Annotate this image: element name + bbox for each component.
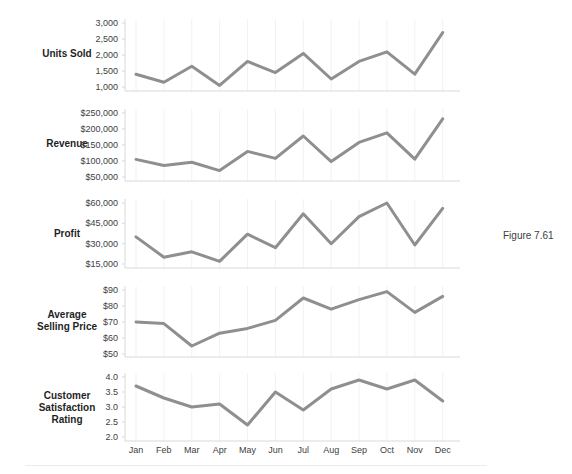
y-tick-label: $50 <box>103 349 118 359</box>
y-tick-label: $150,000 <box>80 140 118 150</box>
figure-caption: Figure 7.61 <box>503 230 554 241</box>
y-tick-label: $45,000 <box>85 218 118 228</box>
month-label: Feb <box>156 445 172 455</box>
series-line <box>136 203 443 261</box>
y-tick-label: 3.0 <box>105 402 118 412</box>
month-label: Oct <box>380 445 395 455</box>
y-tick-label: 1,500 <box>95 66 118 76</box>
figure-bottom-rule <box>25 465 487 466</box>
y-tick-label: $60 <box>103 333 118 343</box>
y-tick-label: $200,000 <box>80 124 118 134</box>
series-line <box>136 119 443 171</box>
series-line <box>136 380 443 425</box>
series-line <box>136 292 443 346</box>
month-label: Sep <box>351 445 367 455</box>
units-sold-chart: 3,0002,5002,0001,5001,000 <box>62 13 462 97</box>
month-label: Jun <box>268 445 283 455</box>
month-label: May <box>239 445 257 455</box>
series-line <box>136 33 443 86</box>
y-tick-label: 3,000 <box>95 18 118 28</box>
customer-satisfaction-rating-chart: 4.03.53.02.52.0 <box>62 367 462 451</box>
y-tick-label: 3.5 <box>105 387 118 397</box>
y-tick-label: 4.0 <box>105 372 118 382</box>
month-label: Mar <box>184 445 200 455</box>
y-tick-label: 1,000 <box>95 82 118 92</box>
y-tick-label: $70 <box>103 317 118 327</box>
y-tick-label: $60,000 <box>85 198 118 208</box>
y-tick-label: $50,000 <box>85 172 118 182</box>
y-tick-label: $250,000 <box>80 108 118 118</box>
month-label: Aug <box>323 445 339 455</box>
y-tick-label: 2.5 <box>105 417 118 427</box>
y-tick-label: $80 <box>103 301 118 311</box>
month-label: Nov <box>407 445 424 455</box>
y-tick-label: 2,500 <box>95 34 118 44</box>
y-tick-label: $15,000 <box>85 259 118 269</box>
y-tick-label: $90 <box>103 285 118 295</box>
revenue-chart: $250,000$200,000$150,000$100,000$50,000 <box>62 103 462 187</box>
average-selling-price-chart: $90$80$70$60$50 <box>62 280 462 364</box>
month-label: Apr <box>213 445 227 455</box>
month-axis-labels: JanFebMarAprMayJunJulAugSepOctNovDec <box>62 441 462 459</box>
month-label: Dec <box>435 445 452 455</box>
profit-chart: $60,000$45,000$30,000$15,000 <box>62 193 462 277</box>
month-label: Jul <box>298 445 310 455</box>
figure-7-61: Units Sold Revenue Profit Average Sellin… <box>0 0 572 474</box>
y-tick-label: 2,000 <box>95 50 118 60</box>
y-tick-label: $100,000 <box>80 156 118 166</box>
month-label: Jan <box>129 445 144 455</box>
y-tick-label: $30,000 <box>85 239 118 249</box>
